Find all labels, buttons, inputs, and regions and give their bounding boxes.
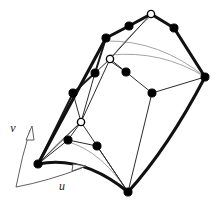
cp-left-edge-2[interactable] <box>69 89 77 97</box>
cp-top-left-arm-2[interactable] <box>125 22 133 30</box>
figure-canvas: v u <box>0 0 220 207</box>
cp-interior-lower-left[interactable] <box>64 136 72 144</box>
v-axis-label: v <box>10 121 16 135</box>
cp-bottom-vertex[interactable] <box>124 188 132 196</box>
cp-interior-lower-right[interactable] <box>93 142 101 150</box>
cp-interior-lower[interactable] <box>77 118 84 125</box>
u-axis-label: u <box>59 179 65 193</box>
cp-interior-mid-right[interactable] <box>148 89 156 97</box>
cp-right-vertex[interactable] <box>201 73 209 81</box>
cp-top-left-arm-1[interactable] <box>102 34 110 42</box>
cp-interior-upper[interactable] <box>106 55 113 62</box>
cp-apex[interactable] <box>147 10 154 17</box>
cp-interior-mid-left[interactable] <box>122 68 130 76</box>
figure-background <box>0 0 220 207</box>
surface-patch-figure: v u <box>0 0 220 207</box>
cp-left-edge-1[interactable] <box>91 69 99 77</box>
cp-top-right-arm-1[interactable] <box>170 24 178 32</box>
cp-bottom-left-vertex[interactable] <box>34 160 42 168</box>
